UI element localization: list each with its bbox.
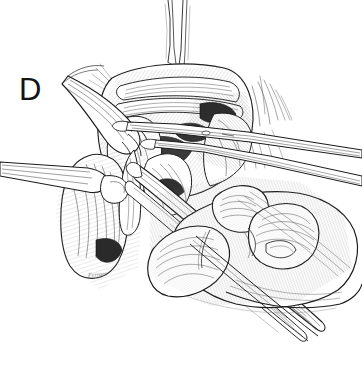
figure-panel: D Ferraro [0, 0, 362, 381]
surgical-illustration [0, 0, 362, 381]
panel-label: D [19, 74, 41, 105]
